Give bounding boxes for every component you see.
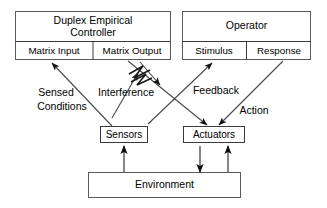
label-sensed-line2: Conditions — [37, 100, 87, 112]
response-cell: Response — [257, 45, 302, 56]
stimulus-cell: Stimulus — [195, 45, 233, 56]
controller-box: Duplex Empirical Controller Matrix Input… — [16, 12, 171, 60]
label-interference: Interference — [98, 86, 154, 98]
matrix-input-cell: Matrix Input — [28, 45, 79, 56]
label-feedback: Feedback — [193, 84, 240, 96]
diagram-svg: Duplex Empirical Controller Matrix Input… — [0, 0, 327, 208]
label-action: Action — [239, 104, 268, 116]
actuators-label: Actuators — [193, 129, 235, 140]
sensors-label: Sensors — [106, 129, 143, 140]
controller-title-line2: Controller — [70, 26, 116, 38]
diagram-canvas: Duplex Empirical Controller Matrix Input… — [0, 0, 327, 208]
environment-label: Environment — [135, 178, 194, 190]
matrix-output-cell: Matrix Output — [103, 45, 162, 56]
operator-box: Operator Stimulus Response — [183, 12, 311, 60]
label-sensed-line1: Sensed — [38, 86, 74, 98]
actuators-node: Actuators — [184, 127, 245, 143]
controller-title-line1: Duplex Empirical — [54, 14, 133, 26]
operator-title: Operator — [226, 19, 268, 31]
environment-box: Environment — [89, 173, 241, 198]
zigzag-stroke-lower — [131, 74, 152, 85]
sensors-node: Sensors — [101, 127, 148, 143]
